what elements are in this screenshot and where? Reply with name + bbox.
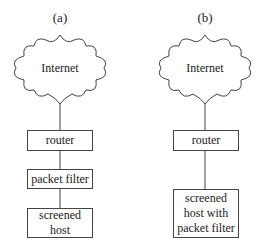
screened-host-line2-a: host (50, 223, 70, 238)
cloud-internet-a: Internet (30, 61, 90, 76)
screened-host-filter-box-b: screened host with packet filter (173, 189, 239, 238)
screened-host-line2-b: host with (184, 206, 228, 221)
packet-filter-label-a: packet filter (31, 172, 89, 187)
screened-host-line1-a: screened (39, 208, 81, 223)
router-label-b: router (192, 133, 221, 148)
panel-label-a: (a) (40, 11, 80, 25)
router-box-a: router (27, 130, 93, 151)
router-label-a: router (46, 133, 75, 148)
packet-filter-box-a: packet filter (27, 169, 93, 189)
screened-host-line1-b: screened (185, 191, 227, 206)
router-box-b: router (173, 130, 239, 151)
cloud-internet-b: Internet (175, 61, 235, 76)
panel-label-b: (b) (185, 11, 225, 25)
screened-host-line3-b: packet filter (177, 221, 235, 236)
screened-host-box-a: screened host (27, 208, 93, 238)
